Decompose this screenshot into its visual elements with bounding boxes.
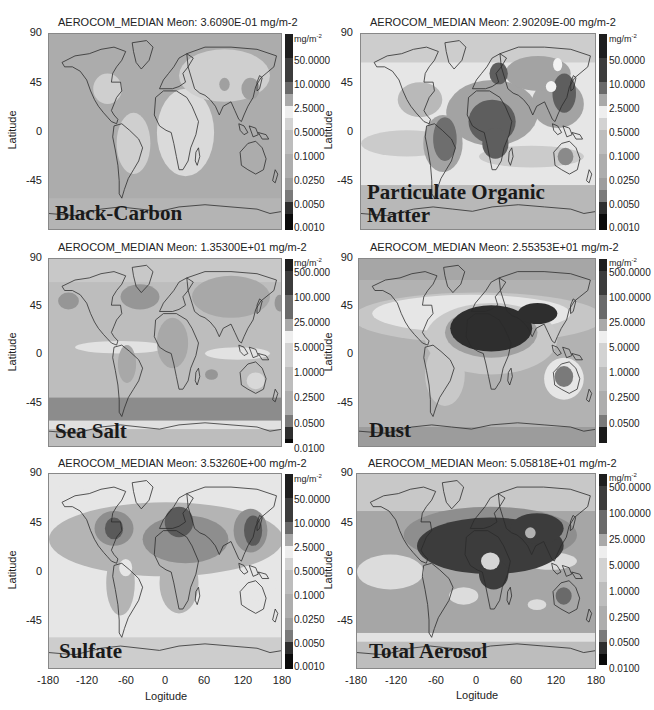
colorbar-label: 50.0000 [294,55,330,66]
ytick-45: 45 [327,299,353,311]
y-axis-label: Latitude [322,550,334,589]
xtick: -120 [381,674,411,686]
colorbar-label: 0.2500 [294,392,325,403]
colorbar-label: 0.2500 [609,392,640,403]
colorbar-label: 25.0000 [609,534,645,545]
panel-title: AEROCOM_MEDIAN Meon: 2.55353E+01 mg/m-2 [370,241,619,253]
colorbar-label: 0.0050 [294,638,325,649]
ytick-minus45: -45 [16,174,42,186]
panel-title: AEROCOM_MEDIAN Meon: 1.35300E+01 mg/m-2 [58,241,307,253]
colorbar [285,34,293,230]
colorbar-label: 5.0000 [294,342,325,353]
xtick: 180 [581,674,611,686]
ytick-90: 90 [327,251,353,263]
colorbar-label: 25.0000 [294,317,330,328]
colorbar-label: 0.0010 [609,222,640,233]
colorbar-label: 0.0250 [609,175,640,186]
colorbar-label: 0.1000 [294,590,325,601]
y-axis-label: Latitude [6,550,18,589]
colorbar-label: 0.0250 [294,614,325,625]
map-sea-salt: Sea Salt [48,258,282,447]
colorbar-label: 1.0000 [294,367,325,378]
colorbar-label: 50.0000 [609,55,645,66]
xtick: 60 [189,674,219,686]
colorbar-label: 0.0500 [609,637,640,648]
colorbar-label: 0.5000 [294,127,325,138]
colorbar-label: 10.0000 [294,518,330,529]
colorbar-label: 500.0000 [609,482,651,493]
ytick-45: 45 [16,516,42,528]
y-axis-label: Latitude [322,110,334,149]
colorbar-label: 0.0010 [294,661,325,672]
colorbar [285,259,293,447]
colorbar-label: 500.000 [294,267,330,278]
colorbar-label: 0.0100 [609,663,640,674]
panel-title: AEROCOM_MEDIAN Meon: 2.90209E-00 mg/m-2 [370,16,616,28]
colorbar-label: 5.0000 [609,560,640,571]
colorbar-label: 0.0500 [609,418,640,429]
colorbar-label: 1.0000 [609,586,640,597]
species-label-line2: Matter [367,204,430,226]
x-axis-label: Logitude [145,690,187,702]
ytick-90: 90 [327,466,353,478]
map-particulate-organic-matter: Particulate Organic Matter [360,33,596,230]
colorbar-label: 10.0000 [609,79,645,90]
ytick-90: 90 [16,251,42,263]
y-axis-label: Latitude [6,110,18,149]
panel-title: AEROCOM_MEDIAN Meon: 5.05818E+01 mg/m-2 [368,457,617,469]
colorbar-label: 100.000 [294,292,330,303]
colorbar-label: 0.0500 [294,418,325,429]
colorbar-label: 0.0250 [294,175,325,186]
y-axis-label: Latitude [322,332,334,371]
colorbar-label: 2.5000 [294,103,325,114]
colorbar-label: 0.5000 [294,566,325,577]
species-label-line1: Particulate Organic [367,181,545,203]
x-axis-label: Logitude [456,689,498,701]
map-sulfate: Sulfate [48,473,282,669]
map-total-aerosol: Total Aerosol [356,473,596,669]
species-label: Sea Salt [55,420,127,442]
ytick-45: 45 [16,76,42,88]
colorbar-label: 0.2500 [609,612,640,623]
colorbar-label: 2.5000 [294,542,325,553]
xtick: -180 [33,674,63,686]
colorbar-label: 2.5000 [609,103,640,114]
xtick: 120 [541,674,571,686]
colorbar-label: 500.0000 [609,267,651,278]
ytick-90: 90 [327,26,353,38]
species-label: Black-Carbon [55,202,182,224]
species-label: Sulfate [59,640,122,662]
colorbar-label: 100.0000 [609,292,651,303]
xtick: 120 [228,674,258,686]
colorbar-unit: mg/m-2 [609,33,637,44]
xtick: 180 [267,674,297,686]
colorbar-label: 10.0000 [294,79,330,90]
ytick-45: 45 [327,516,353,528]
colorbar-label: 0.0050 [294,199,325,210]
ytick-90: 90 [16,26,42,38]
panel-title: AEROCOM_MEDIAN Meon: 3.6090E-01 mg/m-2 [58,16,298,28]
map-black-carbon: Black-Carbon [48,33,282,230]
colorbar-unit: mg/m-2 [294,33,322,44]
colorbar-label: 0.0100 [294,443,325,454]
colorbar-label: 5.0000 [609,342,640,353]
ytick-45: 45 [327,76,353,88]
colorbar [599,34,607,230]
colorbar-label: 50.0000 [294,494,330,505]
xtick: 0 [461,674,491,686]
xtick: 60 [501,674,531,686]
colorbar [285,474,293,669]
xtick: -120 [72,674,102,686]
y-axis-label: Latitude [6,332,18,371]
xtick: -60 [421,674,451,686]
colorbar-label: 1.0000 [609,367,640,378]
colorbar-label: 0.1000 [294,151,325,162]
colorbar-label: 100.0000 [609,508,651,519]
xtick: -60 [111,674,141,686]
colorbar [599,474,607,669]
xtick: 0 [150,674,180,686]
colorbar-unit: mg/m-2 [294,473,322,484]
species-label: Dust [369,419,411,441]
species-label: Total Aerosol [369,640,487,662]
colorbar-label: 0.0010 [294,222,325,233]
